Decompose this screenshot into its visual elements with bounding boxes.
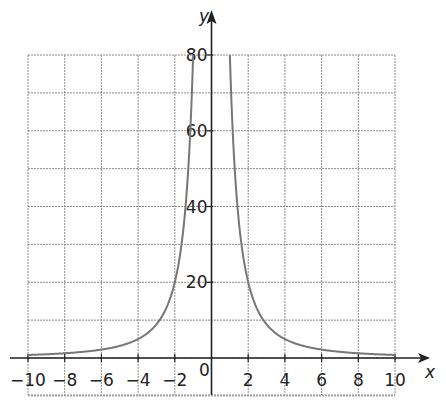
x-tick-label: −10 — [10, 370, 46, 390]
chart: −10−8−6−4−224681020406080 x y 0 — [0, 0, 446, 402]
x-tick-label: −2 — [162, 370, 187, 390]
x-tick-label: −8 — [52, 370, 77, 390]
x-axis-label: x — [424, 362, 436, 382]
y-tick-label: 80 — [186, 45, 208, 65]
y-tick-label: 40 — [186, 197, 208, 217]
x-tick-label: 6 — [316, 370, 327, 390]
y-tick-label: 20 — [186, 272, 208, 292]
origin-label: 0 — [199, 360, 210, 380]
x-tick-label: −6 — [89, 370, 114, 390]
y-axis-label: y — [198, 6, 210, 26]
axes — [10, 10, 430, 395]
x-tick-label: −4 — [126, 370, 151, 390]
x-tick-label: 10 — [384, 370, 406, 390]
x-tick-label: 2 — [243, 370, 254, 390]
x-tick-label: 4 — [279, 370, 290, 390]
curve-left-branch — [28, 55, 193, 355]
x-tick-label: 8 — [353, 370, 364, 390]
tick-labels: −10−8−6−4−224681020406080 — [10, 45, 406, 390]
curve-right-branch — [230, 55, 395, 355]
